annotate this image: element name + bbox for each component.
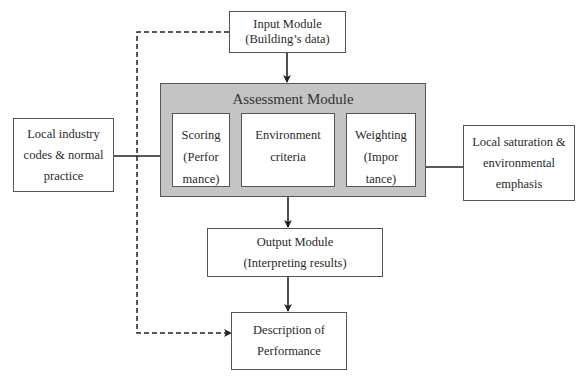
output-module-title: Output Module xyxy=(257,235,334,250)
assessment-module-box: Assessment Module Scoring (Perfor mance)… xyxy=(160,83,426,197)
scoring-line2: (Perfor xyxy=(183,150,218,165)
local-codes-line3: practice xyxy=(44,169,84,184)
environment-line2: criteria xyxy=(270,150,305,165)
weighting-line3: tance) xyxy=(366,172,397,187)
local-saturation-line2: environmental xyxy=(483,156,555,171)
environment-line1: Environment xyxy=(255,128,320,143)
assessment-module-title: Assessment Module xyxy=(161,91,425,108)
output-module-box: Output Module (Interpreting results) xyxy=(207,228,383,277)
local-codes-line1: Local industry xyxy=(27,127,100,142)
input-module-subtitle: (Building’s data) xyxy=(245,32,329,47)
local-industry-codes-box: Local industry codes & normal practice xyxy=(13,118,114,192)
scoring-box: Scoring (Perfor mance) xyxy=(172,113,230,187)
local-saturation-line3: emphasis xyxy=(496,177,543,192)
environment-criteria-box: Environment criteria xyxy=(241,113,335,187)
input-module-title: Input Module xyxy=(253,17,321,32)
scoring-line3: mance) xyxy=(183,172,220,187)
description-line2: Performance xyxy=(257,344,321,359)
scoring-line1: Scoring xyxy=(182,128,221,143)
local-saturation-box: Local saturation & environmental emphasi… xyxy=(463,125,575,201)
local-saturation-line1: Local saturation & xyxy=(472,135,566,150)
weighting-line2: (Impor xyxy=(364,150,399,165)
description-of-performance-box: Description of Performance xyxy=(231,312,347,370)
weighting-box: Weighting (Impor tance) xyxy=(346,113,416,187)
weighting-line1: Weighting xyxy=(355,128,407,143)
local-codes-line2: codes & normal xyxy=(24,148,104,163)
output-module-subtitle: (Interpreting results) xyxy=(243,256,346,271)
input-module-box: Input Module (Building’s data) xyxy=(229,11,346,53)
description-line1: Description of xyxy=(253,323,325,338)
